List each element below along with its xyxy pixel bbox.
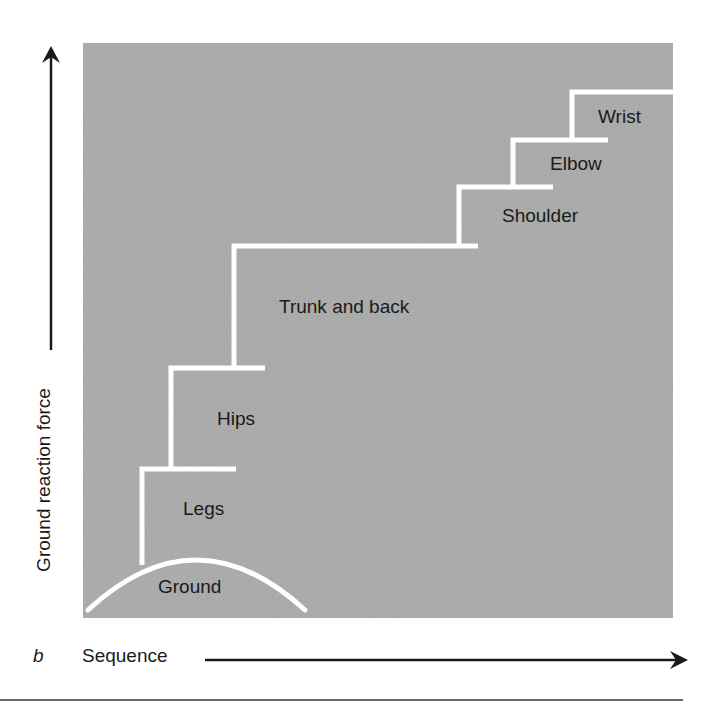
segment-label-elbow: Elbow <box>550 153 602 175</box>
segment-label-trunk-and-back: Trunk and back <box>279 296 409 318</box>
segment-label-wrist: Wrist <box>598 106 641 128</box>
x-axis-arrow <box>205 651 688 669</box>
segment-label-shoulder: Shoulder <box>502 205 578 227</box>
segment-label-legs: Legs <box>183 498 224 520</box>
segment-label-hips: Hips <box>217 408 255 430</box>
y-axis-label: Ground reaction force <box>33 388 55 572</box>
segment-label-ground: Ground <box>158 576 221 598</box>
panel-letter: b <box>33 645 44 667</box>
kinetic-chain-diagram: Ground Legs Hips Trunk and back Shoulder… <box>0 0 702 704</box>
diagram-background-panel <box>83 43 673 618</box>
y-axis-arrow <box>42 46 60 350</box>
x-axis-label: Sequence <box>82 645 168 667</box>
